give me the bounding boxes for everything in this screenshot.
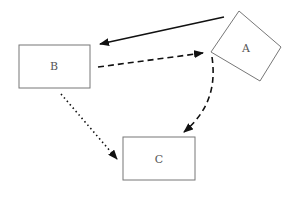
edge-b-to-c bbox=[61, 94, 117, 159]
node-a[interactable]: A bbox=[211, 11, 281, 81]
node-a-label: A bbox=[241, 42, 251, 55]
node-b[interactable]: B bbox=[19, 45, 90, 88]
node-c-label: C bbox=[155, 153, 163, 166]
node-b-label: B bbox=[50, 60, 58, 73]
edge-b-to-a bbox=[98, 53, 203, 67]
diagram-canvas: B A C bbox=[0, 0, 298, 200]
node-c[interactable]: C bbox=[123, 137, 195, 180]
edge-a-to-c bbox=[184, 57, 213, 132]
edge-a-to-b bbox=[100, 17, 224, 44]
